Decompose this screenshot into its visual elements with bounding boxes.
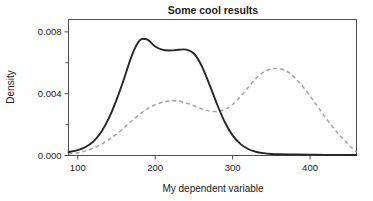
x-tick-label: 400 bbox=[302, 162, 318, 173]
chart-title: Some cool results bbox=[168, 4, 259, 16]
x-tick-label: 200 bbox=[147, 162, 163, 173]
y-axis-label: Density bbox=[5, 70, 16, 103]
x-tick-label: 100 bbox=[70, 162, 86, 173]
y-tick-label: 0.008 bbox=[38, 26, 62, 37]
y-tick-label: 0.000 bbox=[38, 150, 62, 161]
x-axis-label: My dependent variable bbox=[162, 183, 264, 194]
y-tick-label: 0.004 bbox=[38, 88, 62, 99]
plot-canvas: Some cool results 0.0000.0040.008 100200… bbox=[0, 0, 373, 201]
x-tick-label: 300 bbox=[225, 162, 241, 173]
density-plot-figure: Some cool results 0.0000.0040.008 100200… bbox=[0, 0, 373, 201]
